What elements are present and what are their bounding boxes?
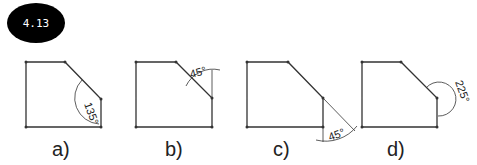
angle-label-b: 45° xyxy=(188,64,207,80)
angle-label-a: 135° xyxy=(82,101,101,126)
angle-diagrams: 135° 45° 45° 225° xyxy=(0,0,477,165)
angle-label-c: 45° xyxy=(327,126,347,143)
panel-label-b: b) xyxy=(165,138,183,161)
shape-c xyxy=(247,62,323,127)
arc-d xyxy=(426,82,456,116)
panel-label-a: a) xyxy=(52,138,70,161)
shape-d xyxy=(362,62,437,127)
panel-label-c: c) xyxy=(273,138,290,161)
panel-label-d: d) xyxy=(387,138,405,161)
